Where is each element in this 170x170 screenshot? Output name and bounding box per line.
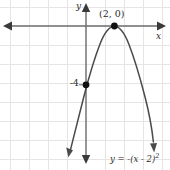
x-axis	[3, 22, 166, 31]
vertex-label: (2, 0)	[99, 9, 125, 19]
curve-arrow-right-icon	[150, 143, 157, 152]
parabola-graph-figure: y x (2, 0) -4 y = -(x - 2)2	[0, 0, 170, 170]
y-intercept-point	[83, 81, 90, 88]
arrow-right-icon	[157, 22, 166, 31]
equation-label: y = -(x - 2)2	[110, 153, 159, 163]
equation-exponent: 2	[155, 152, 159, 160]
x-axis-label: x	[156, 32, 161, 41]
arrow-left-icon	[3, 22, 12, 31]
coordinate-plane-svg	[0, 0, 170, 170]
vertex-point	[111, 23, 118, 30]
equation-text: y = -(x - 2)	[110, 154, 155, 164]
y-intercept-label: -4	[70, 79, 79, 88]
y-axis-label: y	[76, 2, 81, 11]
